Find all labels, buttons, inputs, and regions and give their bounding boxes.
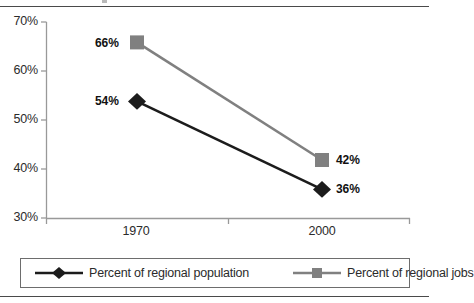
y-axis-label-40: 40% (0, 161, 38, 175)
legend-label-population: Percent of regional population (89, 266, 249, 280)
data-label-population-2000: 36% (336, 182, 360, 196)
series-line-population (137, 101, 322, 189)
x-axis-label-1970: 1970 (106, 224, 166, 238)
y-axis-label-60: 60% (0, 63, 38, 77)
datapoint-jobs-2000 (315, 153, 329, 167)
chart-legend: Percent of regional population Percent o… (20, 258, 410, 288)
bottom-divider-rule (0, 296, 429, 297)
legend-item-population[interactable]: Percent of regional population (35, 266, 249, 280)
chart-canvas (0, 0, 429, 250)
legend-item-jobs[interactable]: Percent of regional jobs (293, 266, 474, 280)
datapoint-population-2000 (313, 181, 331, 198)
y-axis-label-30: 30% (0, 210, 38, 224)
data-label-jobs-1970: 66% (95, 36, 119, 50)
legend-label-jobs: Percent of regional jobs (347, 266, 474, 280)
legend-marker-diamond-icon (35, 266, 83, 280)
legend-marker-square-icon (293, 266, 341, 280)
data-label-population-1970: 54% (95, 94, 119, 108)
x-axis-label-2000: 2000 (292, 224, 352, 238)
datapoint-jobs-1970 (130, 35, 144, 49)
chart-plot-area: 70% 60% 50% 40% 30% 1970 2000 66% 54% 42… (0, 0, 429, 250)
y-axis-label-50: 50% (0, 112, 38, 126)
datapoint-population-1970 (128, 93, 146, 110)
series-line-jobs (137, 42, 322, 160)
y-axis-label-70: 70% (0, 14, 38, 28)
data-label-jobs-2000: 42% (336, 153, 360, 167)
